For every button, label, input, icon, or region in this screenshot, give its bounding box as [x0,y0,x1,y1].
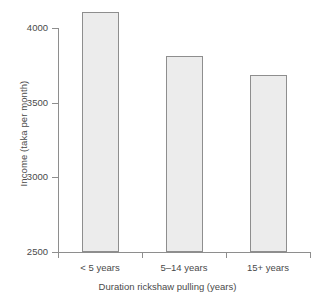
x-axis-tick-label: < 5 years [58,262,142,273]
y-axis-tick [52,177,58,178]
bar [166,56,203,252]
y-axis-tick [52,28,58,29]
x-axis-tick [310,252,311,258]
x-axis-line [58,252,310,253]
bar [250,75,287,252]
x-axis-title: Duration rickshaw pulling (years) [0,281,335,292]
y-axis-tick-label: 2500 [27,246,48,257]
y-axis-tick-label: 4000 [27,22,48,33]
y-axis-tick-label: 3500 [27,97,48,108]
plot-area: 2500300035004000< 5 years5–14 years15+ y… [0,0,335,304]
x-axis-tick-label: 15+ years [226,262,310,273]
x-axis-tick [58,252,59,258]
x-axis-tick-label: 5–14 years [142,262,226,273]
y-axis-tick-label: 3000 [27,171,48,182]
y-axis-line [58,28,59,253]
x-axis-tick [226,252,227,258]
x-axis-tick [142,252,143,258]
y-axis-tick [52,103,58,104]
bar [82,12,119,252]
bar-chart-figure: Income (taka per month) 2500300035004000… [0,0,335,304]
